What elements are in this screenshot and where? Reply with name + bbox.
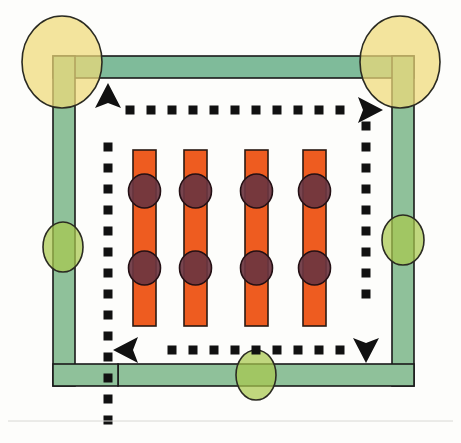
flow-dash <box>231 346 240 355</box>
flow-dash <box>362 227 371 236</box>
flow-dash <box>315 106 324 115</box>
bar-node <box>241 251 273 285</box>
flow-dash <box>362 290 371 299</box>
flow-dash <box>362 143 371 152</box>
flow-dash <box>147 106 156 115</box>
flow-dash <box>104 185 113 194</box>
flow-dash <box>104 164 113 173</box>
flow-dash <box>104 416 113 425</box>
flow-dash <box>104 290 113 299</box>
flow-dash <box>252 346 261 355</box>
flow-dash <box>104 332 113 341</box>
flow-dash <box>294 106 303 115</box>
flow-dash <box>104 227 113 236</box>
flow-dash <box>362 206 371 215</box>
flow-dash <box>104 311 113 320</box>
flow-dash <box>362 185 371 194</box>
flow-dash <box>126 106 135 115</box>
flow-dash <box>168 106 177 115</box>
flow-dash <box>336 106 345 115</box>
node-top-right <box>360 16 440 108</box>
flow-dash <box>189 346 198 355</box>
flow-dash <box>252 106 261 115</box>
flow-dash <box>210 106 219 115</box>
flow-dash <box>189 106 198 115</box>
flow-dash <box>210 346 219 355</box>
flow-dash <box>362 248 371 257</box>
flow-dash <box>231 106 240 115</box>
flow-dash <box>273 106 282 115</box>
node-left-mid <box>43 222 83 272</box>
bar-node <box>299 251 331 285</box>
flow-dash <box>362 164 371 173</box>
flow-dash <box>362 269 371 278</box>
flow-dash <box>104 269 113 278</box>
flow-dash <box>294 346 303 355</box>
flow-dash <box>104 374 113 383</box>
node-top-left <box>22 16 102 108</box>
flow-dash <box>104 395 113 404</box>
flow-dash <box>362 122 371 131</box>
flow-dash <box>168 346 177 355</box>
flow-dash <box>273 346 282 355</box>
bar-node <box>241 174 273 208</box>
flow-dash <box>104 248 113 257</box>
flow-dash <box>104 206 113 215</box>
bar-node <box>129 251 161 285</box>
bar-node <box>299 174 331 208</box>
flow-dash <box>104 353 113 362</box>
flow-dash <box>336 346 345 355</box>
diagram-svg <box>0 0 461 443</box>
bar-node <box>180 174 212 208</box>
flow-dash <box>315 346 324 355</box>
node-bottom-mid <box>236 350 276 400</box>
figure-canvas: Schematic diagram: rectangular green con… <box>0 0 461 443</box>
flow-dash <box>104 143 113 152</box>
bar-node <box>129 174 161 208</box>
node-right-mid <box>382 215 424 265</box>
bar-node <box>180 251 212 285</box>
